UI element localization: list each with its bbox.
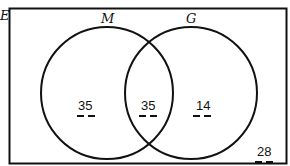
set-g-label: G	[186, 11, 196, 26]
m-only-value: 35	[78, 98, 92, 113]
intersection-value: 35	[141, 98, 155, 113]
venn-diagram: E M G 35 35 14 28	[0, 0, 290, 166]
set-m-label: M	[100, 11, 115, 26]
g-only-value: 14	[196, 98, 210, 113]
set-g-circle	[125, 27, 257, 159]
set-m-circle	[41, 27, 173, 159]
universal-set-border	[10, 9, 287, 164]
outside-value: 28	[257, 144, 271, 159]
